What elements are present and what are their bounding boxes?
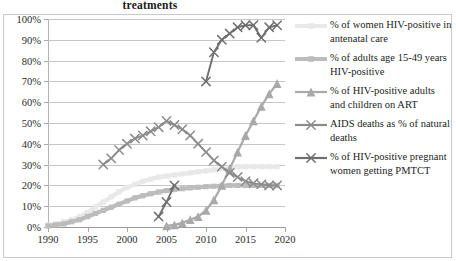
legend-item[interactable]: % of women HIV-positive in antenatal car… — [294, 18, 452, 45]
series-point-marker — [180, 171, 185, 176]
series-point-marker — [227, 183, 232, 188]
series-line — [206, 25, 277, 81]
x-axis-label: 2020 — [275, 234, 296, 245]
y-axis-label: 100% — [17, 14, 42, 25]
series-point-marker — [101, 208, 106, 213]
series-point-marker — [194, 140, 202, 148]
plot-area: 0%10%20%30%40%50%60%70%80%90%100% 199019… — [48, 19, 285, 227]
legend-label: % of HIV-positive adults and children on… — [330, 84, 452, 111]
legend-item[interactable]: AIDS deaths as % of natural deaths — [294, 117, 452, 144]
series-point-marker — [188, 170, 193, 175]
series-point-marker — [172, 172, 177, 177]
series-point-marker — [308, 23, 314, 29]
series-point-marker — [124, 198, 129, 203]
series-point-marker — [211, 167, 216, 172]
x-tick-mark — [88, 227, 89, 232]
data-series-layer — [48, 19, 285, 227]
legend-item[interactable]: % of adults age 15-49 years HIV-positive — [294, 51, 452, 78]
series-point-marker — [156, 189, 161, 194]
series-point-marker — [93, 205, 98, 210]
line-x-marker — [294, 118, 328, 132]
series-point-marker — [117, 202, 122, 207]
series-point-marker — [124, 185, 129, 190]
line-triangle-marker — [294, 85, 328, 99]
series-point-marker — [226, 29, 234, 37]
series-point-marker — [267, 164, 272, 169]
series-point-marker — [211, 184, 216, 189]
series-point-marker — [115, 146, 123, 154]
series-line — [48, 167, 277, 225]
series-point-marker — [93, 211, 98, 216]
series-point-marker — [188, 185, 193, 190]
series-point-marker — [139, 131, 147, 139]
line-square-marker — [294, 19, 328, 33]
series-point-marker — [164, 173, 169, 178]
x-tick-mark — [285, 227, 286, 232]
series-point-marker — [273, 79, 282, 88]
series-point-marker — [156, 174, 161, 179]
series-point-marker — [202, 148, 210, 156]
series-point-marker — [123, 140, 131, 148]
y-axis-label: 0% — [27, 222, 41, 233]
series-point-marker — [162, 117, 170, 125]
series-point-marker — [154, 123, 162, 131]
series-point-marker — [257, 34, 265, 42]
y-axis-label: 60% — [22, 97, 41, 108]
series-line — [103, 121, 277, 185]
x-axis-label: 1995 — [77, 234, 98, 245]
series-point-marker — [61, 221, 66, 226]
series-point-marker — [233, 148, 242, 157]
y-axis-label: 30% — [22, 159, 41, 170]
series-point-marker — [109, 205, 114, 210]
x-tick-mark — [246, 227, 247, 232]
series-point-marker — [140, 179, 145, 184]
series-point-marker — [178, 125, 186, 133]
y-axis-label: 20% — [22, 180, 41, 191]
x-axis-label: 1990 — [38, 234, 59, 245]
series-point-marker — [218, 36, 226, 44]
series-point-marker — [69, 219, 74, 224]
series-point-marker — [148, 177, 153, 182]
series-point-marker — [249, 117, 258, 126]
chart-title: treatments — [0, 0, 300, 11]
series-point-marker — [196, 185, 201, 190]
series-point-marker — [241, 131, 250, 140]
series-point-marker — [148, 191, 153, 196]
y-axis-label: 90% — [22, 34, 41, 45]
x-axis-label: 2005 — [156, 234, 177, 245]
series-point-marker — [186, 131, 194, 139]
x-axis-label: 2015 — [235, 234, 256, 245]
series-point-marker — [164, 188, 169, 193]
series-point-marker — [77, 217, 82, 222]
line-x-marker — [294, 151, 328, 165]
series-point-marker — [180, 186, 185, 191]
y-axis-label: 40% — [22, 138, 41, 149]
series-point-marker — [203, 168, 208, 173]
x-axis-label: 2010 — [196, 234, 217, 245]
legend-item[interactable]: % of HIV-positive pregnant women getting… — [294, 150, 452, 177]
series-point-marker — [235, 164, 240, 169]
series-point-marker — [132, 195, 137, 200]
x-tick-mark — [206, 227, 207, 232]
series-point-marker — [308, 56, 314, 62]
chart-root: treatments 0%10%20%30%40%50%60%70%80%90%… — [0, 0, 456, 261]
series-point-marker — [101, 199, 106, 204]
series-point-marker — [235, 183, 240, 188]
series-point-marker — [170, 121, 178, 129]
series-point-marker — [140, 193, 145, 198]
legend-label: % of women HIV-positive in antenatal car… — [330, 18, 452, 45]
series-point-marker — [109, 194, 114, 199]
series-point-marker — [107, 154, 115, 162]
series-point-marker — [186, 215, 195, 224]
series-point-marker — [132, 182, 137, 187]
y-axis-label: 70% — [22, 76, 41, 87]
series-point-marker — [154, 212, 162, 220]
y-axis-label: 50% — [22, 118, 41, 129]
series-point-marker — [259, 164, 264, 169]
legend-label: % of adults age 15-49 years HIV-positive — [330, 51, 452, 78]
series-point-marker — [85, 214, 90, 219]
series-point-marker — [196, 169, 201, 174]
series-point-marker — [99, 160, 107, 168]
series-point-marker — [117, 189, 122, 194]
legend-item[interactable]: % of HIV-positive adults and children on… — [294, 84, 452, 111]
